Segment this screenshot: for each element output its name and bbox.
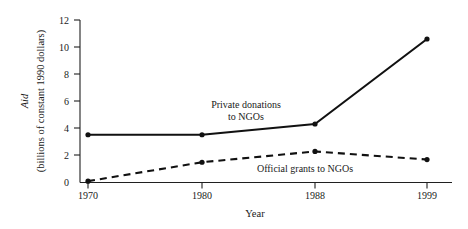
- y-tick-label-10: 10: [59, 42, 69, 53]
- annotation-private-donations-line1: Private donations: [211, 99, 281, 110]
- y-tick-label-12: 12: [59, 15, 69, 26]
- x-tick-label-1970: 1970: [78, 190, 98, 201]
- annotation-private-donations-line2: to NGOs: [228, 111, 264, 122]
- y-tick-label-8: 8: [64, 69, 69, 80]
- data-point-private-1970: [85, 132, 90, 137]
- data-point-official-1970: [85, 179, 90, 184]
- x-tick-label-1999: 1999: [417, 190, 437, 201]
- data-point-official-1999: [424, 157, 429, 162]
- y-tick-label-4: 4: [64, 123, 69, 134]
- chart-container: 12 10 8 6 4 2 0 1970 1980 1988 1999 Year…: [0, 0, 468, 229]
- y-tick-label-6: 6: [64, 96, 69, 107]
- data-point-private-1999: [424, 36, 429, 41]
- y-axis-title-top: Aid: [19, 93, 30, 109]
- data-point-official-1980: [199, 160, 204, 165]
- data-point-private-1988: [312, 121, 317, 126]
- y-tick-label-2: 2: [64, 150, 69, 161]
- x-tick-label-1980: 1980: [192, 190, 212, 201]
- data-point-private-1980: [199, 132, 204, 137]
- data-point-official-1988: [312, 149, 317, 154]
- y-tick-label-0: 0: [64, 177, 69, 188]
- x-tick-label-1988: 1988: [305, 190, 325, 201]
- x-axis-title: Year: [245, 208, 265, 219]
- y-axis-title-bottom: (billions of constant 1990 dollars): [35, 29, 47, 172]
- annotation-official-grants: Official grants to NGOs: [257, 163, 353, 174]
- line-chart: 12 10 8 6 4 2 0 1970 1980 1988 1999 Year…: [0, 0, 468, 229]
